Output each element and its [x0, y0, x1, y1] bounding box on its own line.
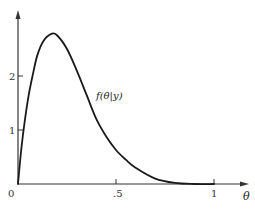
posterior-density-chart: 12 0.51 f(θ|y) θ	[0, 0, 255, 211]
x-tick-label: 1	[211, 188, 217, 199]
x-ticks: 0.51	[8, 179, 217, 199]
x-axis-arrow-icon	[240, 182, 249, 187]
y-axis-arrow-icon	[16, 10, 21, 19]
x-axis-label: θ	[243, 190, 250, 203]
curve-label: f(θ|y)	[95, 90, 123, 102]
density-curve	[18, 33, 214, 184]
x-tick-label: .5	[113, 188, 123, 199]
y-tick-label: 1	[9, 125, 15, 136]
x-tick-label: 0	[8, 188, 14, 199]
y-tick-label: 2	[9, 71, 15, 82]
y-ticks: 12	[9, 71, 23, 136]
